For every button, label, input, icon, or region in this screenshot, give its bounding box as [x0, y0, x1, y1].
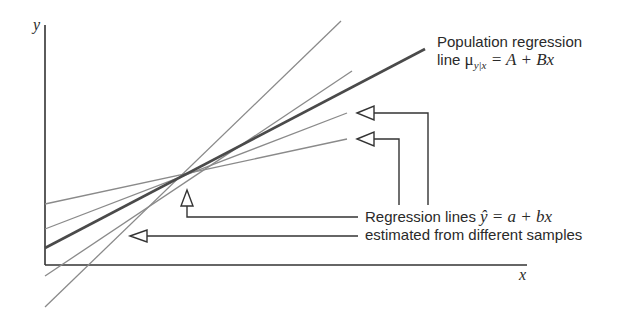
arrow-icon [357, 132, 399, 205]
sample-label: Regression lines ŷ = a + bx estimated fr… [365, 208, 582, 244]
population-label-line1: Population regression [437, 33, 582, 51]
sample-label-line2: estimated from different samples [365, 226, 582, 244]
arrow-icon [181, 190, 358, 217]
x-axis-label: x [519, 266, 526, 284]
population-label: Population regression line μy|x = A + Bx [437, 33, 582, 74]
population-label-line2: line μy|x = A + Bx [437, 51, 582, 74]
sample-line-1 [45, 21, 341, 307]
sample-label-line1: Regression lines ŷ = a + bx [365, 208, 582, 226]
sample-line-2 [45, 71, 352, 276]
arrow-icon [357, 106, 428, 205]
sample-line-4 [45, 139, 347, 204]
y-axis-label: y [33, 16, 40, 34]
arrow-icon [130, 230, 358, 242]
